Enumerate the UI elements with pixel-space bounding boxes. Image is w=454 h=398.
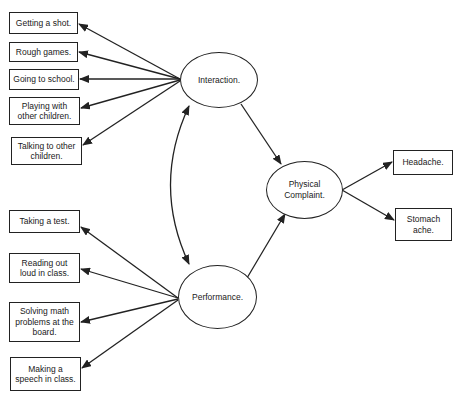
arrow-performance-physical xyxy=(247,214,285,278)
node-label: Physical Complaint. xyxy=(273,179,336,201)
node-label: Interaction. xyxy=(198,75,240,86)
indicator-stomach-ache: Stomach ache. xyxy=(395,208,452,241)
indicator-solving-math: Solving math problems at the board. xyxy=(9,302,80,342)
arrow-physical-headache xyxy=(342,162,392,190)
arrow-physical-stomach xyxy=(342,190,394,220)
indicator-reading-out-loud: Reading out loud in class. xyxy=(9,253,80,283)
node-label: Performance. xyxy=(192,292,243,303)
indicator-playing-with-children: Playing with other children. xyxy=(9,97,80,125)
indicator-taking-a-test: Taking a test. xyxy=(9,210,80,233)
node-physical-complaint: Physical Complaint. xyxy=(266,161,343,219)
arrow-interaction-shot xyxy=(79,24,180,79)
indicator-talking-to-children: Talking to other children. xyxy=(11,137,82,165)
arrow-performance-reading xyxy=(81,269,178,298)
arrow-interaction-physical xyxy=(241,104,281,164)
arrow-interaction-playing xyxy=(81,80,180,108)
indicator-headache: Headache. xyxy=(393,150,453,175)
indicator-getting-a-shot: Getting a shot. xyxy=(9,12,78,34)
arrow-interaction-talking xyxy=(83,81,180,145)
covariance-arrow xyxy=(171,106,190,264)
arrow-performance-test xyxy=(81,227,178,298)
node-interaction: Interaction. xyxy=(180,52,258,108)
indicator-going-to-school: Going to school. xyxy=(9,69,79,90)
indicator-rough-games: Rough games. xyxy=(9,42,78,62)
indicator-making-a-speech: Making a speech in class. xyxy=(10,357,81,391)
node-performance: Performance. xyxy=(178,265,257,329)
arrow-interaction-rough xyxy=(79,52,180,79)
